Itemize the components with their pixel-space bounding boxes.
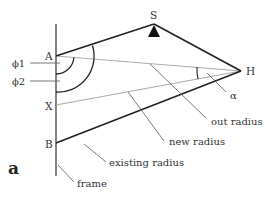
out-radius-line [56, 56, 241, 71]
label-b: B [45, 138, 53, 150]
existing-radius-leader [84, 144, 106, 162]
new-radius-leader [128, 92, 164, 141]
label-phi2: ϕ2 [12, 76, 25, 87]
label-frame: frame [77, 178, 107, 189]
label-out-radius: out radius [211, 116, 263, 127]
line-s-h [154, 24, 241, 71]
panel-label: a [8, 158, 19, 178]
label-h: H [246, 65, 255, 77]
label-s: S [150, 9, 157, 21]
alpha-arc [197, 67, 198, 79]
label-phi1: ϕ1 [12, 58, 25, 69]
phi1-arc [56, 58, 74, 75]
line-a-s [56, 24, 154, 56]
new-radius-line [56, 71, 241, 105]
out-radius-leader [150, 64, 206, 118]
phi2-arc [56, 46, 94, 93]
label-new-radius: new radius [169, 136, 225, 147]
label-x: X [45, 100, 53, 112]
label-existing-radius: existing radius [109, 157, 184, 168]
diagram-canvas: S H A X B ϕ1 ϕ2 α out radius new radius … [0, 0, 265, 199]
frame-leader [58, 165, 74, 182]
label-a: A [44, 50, 53, 62]
label-alpha: α [230, 90, 237, 101]
